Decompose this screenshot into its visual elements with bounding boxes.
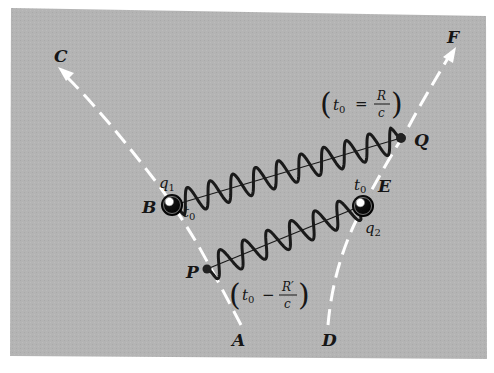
label-b: B — [141, 197, 156, 217]
svg-text:R: R — [376, 89, 386, 103]
svg-text:): ) — [298, 277, 310, 312]
label-d: D — [321, 330, 337, 350]
svg-text:): ) — [391, 86, 403, 121]
event-q-dot — [396, 133, 406, 143]
svg-text:−: − — [262, 286, 275, 304]
svg-text:c: c — [378, 106, 385, 120]
charge-q2-ball — [352, 195, 374, 217]
label-e: E — [377, 176, 392, 196]
svg-text:R′: R′ — [281, 280, 294, 294]
svg-text:c: c — [284, 297, 291, 311]
event-p-dot — [203, 265, 212, 274]
label-q: Q — [414, 130, 429, 150]
svg-text:=: = — [355, 95, 368, 113]
charge-q1-ball — [161, 194, 183, 216]
label-p: P — [185, 262, 200, 282]
svg-text:(: ( — [229, 277, 241, 312]
retarded-interaction-diagram: C F B E P Q A D q1 t0 t0 q2 ( t0 = R c )… — [0, 0, 494, 373]
svg-text:(: ( — [320, 86, 332, 121]
label-f: F — [446, 27, 461, 47]
label-c: C — [54, 46, 68, 66]
label-a: A — [230, 330, 245, 350]
